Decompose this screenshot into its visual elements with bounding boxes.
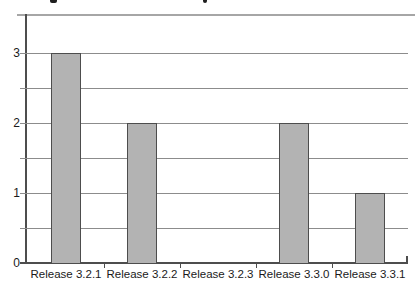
y-axis-tick-label: 0 — [0, 256, 20, 270]
x-axis-category-label: Release 3.2.2 — [104, 267, 180, 281]
bar-release-3-3-1 — [355, 193, 385, 263]
x-axis-category-label: Release 3.2.3 — [180, 267, 256, 281]
top-rule — [17, 14, 415, 16]
y-axis-line — [25, 14, 27, 264]
bar-release-3-3-0 — [279, 123, 309, 263]
bar-chart-figure: 0123 Release 3.2.1Release 3.2.2Release 3… — [0, 0, 420, 298]
y-axis-tick-label: 3 — [0, 46, 20, 60]
x-axis-category-label: Release 3.3.0 — [256, 267, 332, 281]
x-axis-right-end-tick — [406, 256, 408, 263]
cropped-title-fragment — [50, 0, 57, 3]
x-axis-category-label: Release 3.2.1 — [28, 267, 104, 281]
bar-release-3-2-2 — [127, 123, 157, 263]
bar-release-3-2-1 — [51, 53, 81, 263]
y-axis-tick-label: 2 — [0, 116, 20, 130]
y-axis-tick-label: 1 — [0, 186, 20, 200]
x-axis-category-label: Release 3.3.1 — [332, 267, 408, 281]
cropped-title-fragment — [203, 0, 207, 3]
